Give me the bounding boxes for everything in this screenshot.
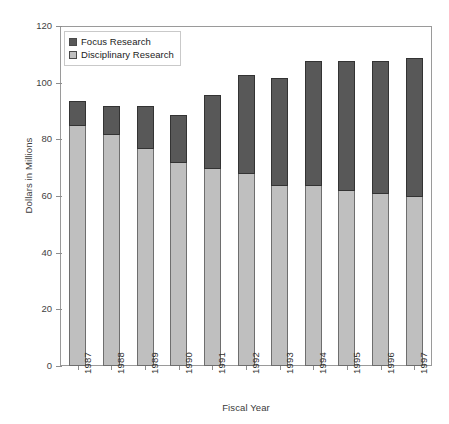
x-axis-tick-label: 1992 — [250, 352, 261, 374]
bar-segment-focus-research — [238, 75, 255, 174]
bar-segment-focus-research — [204, 95, 221, 169]
legend-label-focus-research: Focus Research — [81, 36, 151, 47]
bar-segment-disciplinary-research — [204, 168, 221, 366]
x-axis-tick-mark — [212, 366, 213, 370]
x-axis-title: Fiscal Year — [60, 402, 432, 413]
bar-segment-disciplinary-research — [69, 125, 86, 366]
bar-column — [305, 26, 322, 366]
x-axis-tick-mark — [313, 366, 314, 370]
bar-column — [372, 26, 389, 366]
bar-column — [170, 26, 187, 366]
x-axis-tick-label: 1993 — [284, 352, 295, 374]
x-axis-tick-label: 1995 — [351, 352, 362, 374]
bar-segment-focus-research — [372, 61, 389, 194]
legend-item-focus-research: Focus Research — [69, 35, 174, 48]
bar-segment-focus-research — [305, 61, 322, 186]
x-axis-tick-mark — [78, 366, 79, 370]
bar-segment-focus-research — [170, 115, 187, 163]
y-axis-tick-label: 80 — [41, 133, 52, 144]
x-axis-tick-label: 1994 — [317, 352, 328, 374]
chart-legend: Focus Research Disciplinary Research — [64, 31, 181, 66]
bar-segment-disciplinary-research — [305, 185, 322, 366]
bar-column — [271, 26, 288, 366]
legend-label-disciplinary-research: Disciplinary Research — [81, 49, 174, 60]
x-axis-tick-mark — [414, 366, 415, 370]
bars-layer — [61, 26, 431, 366]
bar-segment-disciplinary-research — [238, 173, 255, 366]
x-axis-tick-label: 1991 — [216, 352, 227, 374]
x-axis-tick-mark — [111, 366, 112, 370]
bar-segment-disciplinary-research — [338, 190, 355, 366]
x-axis-tick-label: 1989 — [149, 352, 160, 374]
x-axis-tick-label: 1996 — [385, 352, 396, 374]
y-axis-title: Dollars in Millions — [23, 56, 34, 296]
bar-segment-disciplinary-research — [170, 162, 187, 366]
y-axis-tick-label: 0 — [47, 360, 52, 371]
legend-item-disciplinary-research: Disciplinary Research — [69, 48, 174, 61]
bar-column — [137, 26, 154, 366]
bar-column — [69, 26, 86, 366]
x-axis-tick-label: 1990 — [183, 352, 194, 374]
bar-segment-focus-research — [69, 101, 86, 127]
bar-segment-disciplinary-research — [137, 148, 154, 366]
legend-swatch-disciplinary-research — [69, 51, 77, 59]
x-axis-tick-mark — [280, 366, 281, 370]
x-axis-tick-mark — [179, 366, 180, 370]
x-axis-tick-mark — [246, 366, 247, 370]
x-axis-tick-label: 1997 — [418, 352, 429, 374]
bar-segment-disciplinary-research — [103, 134, 120, 366]
bar-segment-disciplinary-research — [406, 196, 423, 366]
bar-segment-focus-research — [406, 58, 423, 197]
bar-segment-focus-research — [338, 61, 355, 191]
x-axis-tick-label: 1988 — [115, 352, 126, 374]
bar-segment-focus-research — [137, 106, 154, 149]
bar-segment-focus-research — [271, 78, 288, 186]
bar-segment-focus-research — [103, 106, 120, 134]
x-axis-tick-mark — [347, 366, 348, 370]
bar-column — [103, 26, 120, 366]
x-axis-tick-mark — [145, 366, 146, 370]
bar-segment-disciplinary-research — [271, 185, 288, 366]
x-axis-tick-label: 1987 — [82, 352, 93, 374]
y-axis-tick-label: 100 — [36, 77, 52, 88]
y-axis-tick-label: 60 — [41, 190, 52, 201]
x-axis-tick-mark — [381, 366, 382, 370]
legend-swatch-focus-research — [69, 38, 77, 46]
y-axis-tick-label: 20 — [41, 303, 52, 314]
bar-column — [406, 26, 423, 366]
stacked-bar-chart: Dollars in Millions 020406080100120 1987… — [0, 0, 449, 424]
bar-segment-disciplinary-research — [372, 193, 389, 366]
bar-column — [338, 26, 355, 366]
bar-column — [238, 26, 255, 366]
x-axis: 1987198819891990199119921993199419951996… — [61, 366, 431, 422]
y-axis-tick-label: 40 — [41, 247, 52, 258]
bar-column — [204, 26, 221, 366]
y-axis-tick-label: 120 — [36, 20, 52, 31]
